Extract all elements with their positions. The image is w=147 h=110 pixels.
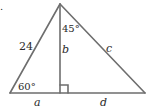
- base-angle-label: 60°: [18, 81, 36, 92]
- problem-marker: .: [0, 1, 3, 12]
- triangle-diagram: . 24 45° b c 60° a d: [0, 0, 147, 110]
- left-side-length-label: 24: [19, 40, 33, 53]
- left-base-segment-label: a: [34, 96, 41, 109]
- right-side-label: c: [106, 42, 112, 55]
- left-side-edge: [10, 4, 60, 93]
- right-base-segment-label: d: [100, 96, 107, 109]
- apex-angle-label: 45°: [62, 23, 80, 34]
- right-angle-marker-icon: [60, 85, 68, 93]
- altitude-label: b: [62, 43, 69, 56]
- right-side-edge: [60, 4, 145, 93]
